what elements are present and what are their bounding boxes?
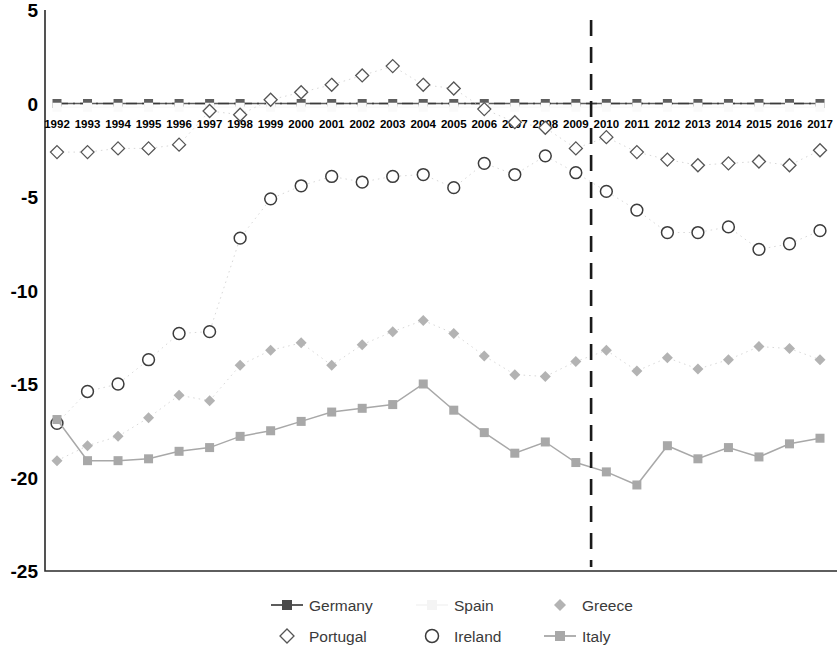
data-point-marker (752, 155, 765, 168)
data-point-marker (417, 169, 429, 181)
y-axis-tick-label: -10 (11, 281, 38, 302)
chart-axes (45, 10, 837, 571)
axis-spine (45, 10, 837, 571)
data-point-marker (602, 103, 611, 112)
chart-legend: GermanySpainGreecePortugalIrelandItaly (271, 597, 633, 645)
data-point-marker (509, 169, 521, 181)
x-axis-tick-label: 2017 (807, 118, 833, 130)
data-point-marker (357, 339, 368, 350)
data-point-marker (631, 365, 642, 376)
data-point-marker (539, 150, 551, 162)
legend-item-portugal[interactable]: Portugal (280, 628, 367, 645)
series-line (57, 66, 820, 165)
data-point-marker (53, 415, 62, 424)
data-point-marker (509, 369, 520, 380)
data-point-marker (175, 103, 184, 112)
data-point-marker (265, 193, 277, 205)
data-point-marker (448, 182, 460, 194)
x-axis-tick-label: 2004 (410, 118, 436, 130)
data-point-marker (540, 371, 551, 382)
legend-item-greece[interactable]: Greece (554, 597, 633, 614)
data-point-marker (449, 103, 458, 112)
data-point-marker (51, 146, 64, 159)
data-point-marker (783, 159, 796, 172)
data-point-marker (113, 431, 124, 442)
data-point-marker (419, 103, 428, 112)
data-point-marker (662, 352, 673, 363)
data-point-marker (388, 103, 397, 112)
data-point-marker (662, 227, 674, 239)
data-point-marker (632, 103, 641, 112)
data-point-marker (205, 443, 214, 452)
x-axis-tick-label: 2011 (624, 118, 650, 130)
data-point-marker (478, 103, 491, 116)
chart-series-ireland (51, 150, 826, 429)
data-point-marker (327, 103, 336, 112)
data-point-marker (356, 176, 368, 188)
legend-item-ireland[interactable]: Ireland (426, 628, 502, 645)
data-point-marker (632, 480, 641, 489)
x-axis-tick-label: 2002 (349, 118, 375, 130)
data-point-marker (387, 171, 399, 183)
data-point-marker (600, 185, 612, 197)
data-point-marker (296, 337, 307, 348)
data-point-marker (571, 458, 580, 467)
data-point-marker (692, 227, 704, 239)
data-point-marker (692, 364, 703, 375)
data-point-marker (418, 315, 429, 326)
chart-series-italy (53, 380, 825, 490)
data-point-marker (601, 345, 612, 356)
data-point-marker (600, 131, 613, 144)
data-point-marker (814, 144, 827, 157)
legend-label: Greece (582, 597, 633, 614)
legend-item-spain[interactable]: Spain (416, 597, 494, 614)
y-axis-tick-label: -15 (11, 374, 39, 395)
data-point-marker (693, 103, 702, 112)
series-line (57, 384, 820, 485)
legend-marker (426, 630, 439, 643)
x-axis-tick-label: 2001 (319, 118, 345, 130)
data-point-marker (83, 103, 92, 112)
data-point-marker (753, 341, 764, 352)
legend-label: Ireland (454, 628, 501, 645)
data-point-marker (785, 103, 794, 112)
data-point-marker (571, 103, 580, 112)
data-point-marker (724, 443, 733, 452)
x-axis-tick-label: 2006 (471, 118, 497, 130)
chart-series-greece (52, 315, 826, 466)
data-point-marker (173, 328, 185, 340)
x-axis-tick-label: 2012 (655, 118, 681, 130)
data-point-marker (114, 456, 123, 465)
x-axis-tick-label: 2015 (746, 118, 772, 130)
data-point-marker (297, 417, 306, 426)
x-axis-tick-label: 1997 (197, 118, 223, 130)
data-point-marker (236, 432, 245, 441)
data-point-marker (265, 345, 276, 356)
data-point-marker (112, 378, 124, 390)
data-point-marker (630, 146, 643, 159)
data-point-marker (784, 238, 796, 250)
y-axis-tick-label: -25 (11, 561, 39, 582)
data-point-marker (144, 103, 153, 112)
data-point-marker (631, 204, 643, 216)
x-axis-tick-label: 2000 (288, 118, 314, 130)
legend-label: Spain (454, 597, 494, 614)
data-point-marker (570, 356, 581, 367)
y-axis-tick-label: -20 (11, 468, 38, 489)
data-point-marker (82, 386, 94, 398)
data-point-marker (816, 103, 825, 112)
data-point-marker (143, 354, 155, 366)
x-axis-tick-label: 1995 (136, 118, 162, 130)
data-point-marker (234, 232, 246, 244)
legend-label: Italy (582, 628, 611, 645)
legend-item-germany[interactable]: Germany (271, 597, 373, 614)
data-point-marker (510, 449, 519, 458)
data-point-marker (661, 153, 674, 166)
data-point-marker (264, 93, 277, 106)
data-point-marker (388, 400, 397, 409)
legend-item-italy[interactable]: Italy (544, 628, 611, 645)
legend-marker (280, 629, 294, 643)
data-point-marker (693, 454, 702, 463)
data-point-marker (295, 86, 308, 99)
data-point-marker (569, 142, 582, 155)
